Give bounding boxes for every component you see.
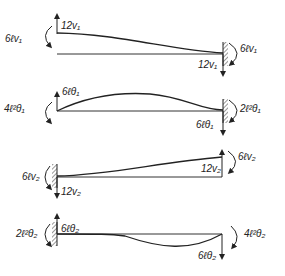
label-left-force: 6ℓθ₂: [61, 224, 79, 234]
label-right-force: 12v₂: [201, 164, 221, 174]
label-left-moment: 4ℓ²θ₁: [4, 104, 25, 114]
fixed-support-icon: [223, 42, 228, 66]
beam-diagram: 6ℓv₁ 12v₁ 6ℓv₁ 12v₁ 4ℓ²θ₁ 6ℓθ₁ 2ℓ²θ₁ 6ℓθ…: [0, 0, 285, 276]
deflected-shape: [57, 93, 223, 111]
label-right-moment: 6ℓv₂: [238, 152, 256, 162]
label-right-moment: 2ℓ²θ₁: [240, 104, 261, 114]
deflected-shape: [57, 157, 222, 176]
label-right-moment: 4ℓ²θ₂: [244, 229, 265, 239]
left-moment-arrow-icon: [45, 26, 52, 46]
left-moment-arrow-icon: [45, 102, 52, 122]
right-moment-arrow-icon: [228, 151, 236, 172]
label-left-moment: 6ℓv₂: [22, 172, 40, 182]
left-moment-arrow-icon: [45, 166, 50, 188]
fixed-support-icon: [52, 222, 57, 246]
right-moment-arrow-icon: [229, 100, 237, 121]
right-moment-arrow-icon: [231, 226, 237, 247]
label-left-moment: 2ℓ²θ₂: [16, 229, 37, 239]
label-left-force: 12v₁: [61, 21, 80, 31]
label-right-force: 6ℓθ₁: [196, 120, 213, 130]
fixed-support-icon: [223, 99, 228, 123]
label-left-force: 12v₂: [61, 187, 81, 197]
label-left-moment: 6ℓv₁: [5, 34, 22, 44]
label-right-force: 12v₁: [198, 60, 217, 70]
fixed-support-icon: [52, 164, 57, 188]
label-right-force: 6ℓθ₂: [198, 251, 216, 261]
deflected-shape: [57, 234, 222, 246]
label-left-force: 6ℓθ₁: [62, 87, 79, 97]
left-moment-arrow-icon: [45, 224, 50, 245]
beam-drawing: [0, 0, 285, 276]
right-moment-arrow-icon: [229, 43, 237, 64]
label-right-moment: 6ℓv₁: [240, 44, 257, 54]
deflected-shape: [57, 33, 223, 53]
